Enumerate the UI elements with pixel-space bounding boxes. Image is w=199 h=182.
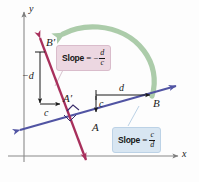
y-axis-label: y [29, 4, 33, 14]
point-label-a-prime: A′ [63, 93, 72, 104]
slope-perpendicular-diagram: y x B′ A′ A B −d c c d Slope = − d c Slo… [0, 0, 199, 182]
point-label-a: A [92, 122, 99, 133]
callout-negative-sign: − [93, 54, 98, 63]
callout-positive-numerator: c [149, 131, 155, 140]
callout-positive-fraction: c d [149, 131, 155, 149]
callout-positive-slope: Slope = c d [112, 127, 161, 153]
segment-label-run-blue: d [119, 83, 124, 93]
x-axis-label: x [182, 149, 186, 159]
callout-positive-keyword: Slope [118, 136, 140, 145]
point-label-b: B [153, 98, 160, 109]
callout-negative-keyword: Slope [62, 54, 84, 63]
measurement-arrows-layer [0, 0, 199, 182]
segment-label-run-crimson: c [44, 108, 48, 118]
callout-negative-slope: Slope = − d c [56, 45, 111, 71]
callout-negative-numerator: d [99, 49, 105, 58]
callout-negative-fraction: d c [99, 49, 105, 67]
point-label-b-prime: B′ [46, 37, 55, 48]
callout-negative-denominator: c [100, 59, 106, 68]
callout-positive-equals: = [142, 136, 147, 145]
segment-label-rise-crimson: −d [22, 71, 34, 81]
callout-negative-equals: = [86, 54, 91, 63]
callout-positive-denominator: d [149, 141, 155, 150]
segment-label-rise-blue: c [99, 99, 103, 109]
